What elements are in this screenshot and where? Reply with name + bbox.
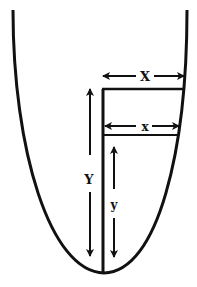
small-width-arrow: x xyxy=(105,120,179,134)
parabola-diagram: X x Y y xyxy=(0,0,197,287)
parabola-curve xyxy=(13,10,187,273)
big-width-label: X xyxy=(140,69,151,84)
big-height-arrow: Y xyxy=(83,89,94,256)
small-height-arrow: y xyxy=(110,147,119,257)
small-height-label: y xyxy=(110,198,119,212)
big-width-arrow: X xyxy=(103,69,184,84)
big-height-label: Y xyxy=(83,172,94,187)
small-width-label: x xyxy=(141,120,149,134)
